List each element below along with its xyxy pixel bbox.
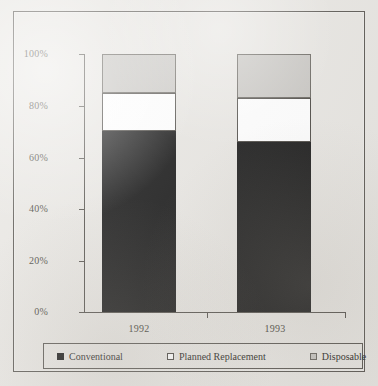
y-axis-line: [84, 54, 85, 313]
y-axis-label-20: 20%: [29, 256, 48, 266]
legend-item-planned-replacement[interactable]: Planned Replacement: [167, 351, 266, 362]
legend-label-conventional: Conventional: [69, 351, 123, 362]
y-axis-label-0: 0%: [34, 307, 48, 317]
y-tick-60: [79, 158, 85, 159]
y-axis-label-80: 80%: [29, 101, 48, 111]
plot-area: 100% 80% 60% 40% 20% 0% 1992 1993: [14, 12, 364, 371]
legend-label-planned-replacement: Planned Replacement: [179, 351, 266, 362]
y-tick-80: [79, 106, 85, 107]
bar-1993[interactable]: [237, 54, 311, 313]
y-tick-100: [79, 54, 85, 55]
y-tick-40: [79, 209, 85, 210]
x-tick-mid: [207, 312, 208, 318]
chart-frame: 100% 80% 60% 40% 20% 0% 1992 1993: [13, 11, 365, 372]
filled-black-square-icon: [57, 353, 64, 360]
bar-1992-segment-disposable[interactable]: [102, 54, 176, 93]
bar-1993-segment-disposable[interactable]: [237, 54, 311, 98]
chart-legend: Conventional Planned Replacement Disposa…: [43, 343, 363, 369]
legend-item-disposable[interactable]: Disposable: [310, 351, 366, 362]
legend-item-conventional[interactable]: Conventional: [57, 351, 123, 362]
y-tick-20: [79, 261, 85, 262]
x-axis-label-1992: 1992: [109, 323, 169, 334]
filled-gray-square-icon: [310, 353, 317, 360]
y-axis-label-60: 60%: [29, 153, 48, 163]
legend-label-disposable: Disposable: [322, 351, 366, 362]
x-tick-right: [345, 312, 346, 318]
bar-1993-segment-conventional[interactable]: [237, 142, 311, 312]
bar-1992-segment-planned-replacement[interactable]: [102, 93, 176, 132]
outlined-white-square-icon: [167, 353, 174, 360]
bar-1992[interactable]: [102, 54, 176, 313]
y-axis-label-100: 100%: [24, 49, 48, 59]
x-axis-label-1993: 1993: [245, 323, 305, 334]
bar-1993-segment-planned-replacement[interactable]: [237, 98, 311, 142]
y-axis-label-40: 40%: [29, 204, 48, 214]
bar-1992-segment-conventional[interactable]: [102, 131, 176, 312]
